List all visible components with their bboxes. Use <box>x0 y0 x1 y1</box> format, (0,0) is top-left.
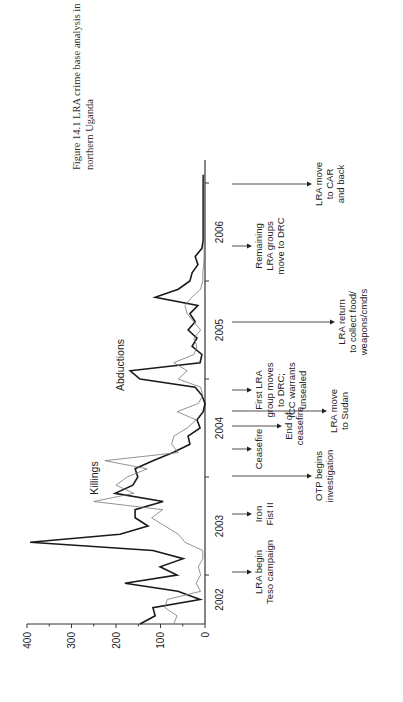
series-label-killings: Killings <box>88 461 100 494</box>
annotation-text-line: Remaining <box>253 223 264 268</box>
series-label-abductions: Abductions <box>114 339 126 391</box>
annotation-text-line: Teso campaign <box>264 540 275 604</box>
annotation: Ceasefire <box>232 429 264 470</box>
series-line-abductions <box>30 175 205 624</box>
annotation-text-line: group moves <box>264 362 275 417</box>
value-tick-label: 300 <box>66 632 77 649</box>
annotation-text-line: to collect food/ <box>347 291 358 353</box>
annotation-text-line: LRA return <box>336 299 347 344</box>
time-tick-label: 2004 <box>214 416 225 439</box>
annotation-arrowhead-icon <box>322 409 327 414</box>
annotation: RemainingLRA groupsmove to DRC <box>232 217 286 274</box>
series-labels: KillingsAbductions <box>88 339 126 495</box>
annotation-arrowhead-icon <box>247 388 252 393</box>
annotation: First LRAgroup movesto DRC;ICC warrantsu… <box>232 362 308 418</box>
annotation-text-line: LRA groups <box>264 221 275 271</box>
annotation-text-line: investigation <box>324 450 335 503</box>
annotation-text-line: to DRC; <box>275 373 286 407</box>
annotation-arrowhead-icon <box>247 512 252 517</box>
annotation-text-line: LRA begin <box>253 550 264 594</box>
chart-title-line: northern Uganda <box>84 99 95 170</box>
annotation-arrowhead-icon <box>330 320 335 325</box>
series-layer <box>30 175 205 624</box>
annotation-text-line: weapons/cmdrs <box>358 288 369 356</box>
annotation-text-line: move to DRC <box>275 217 286 274</box>
annotation-arrowhead-icon <box>247 447 252 452</box>
annotation-text-line: LRA move <box>313 162 324 206</box>
annotation-text-line: Ceasefire <box>253 429 264 470</box>
annotation-arrowhead-icon <box>307 474 312 479</box>
annotation-arrowhead-icon <box>247 244 252 249</box>
annotation: LRA returnto collect food/weapons/cmdrs <box>232 288 369 356</box>
annotation-text-line: Iron <box>253 506 264 522</box>
annotations: LRA beginTeso campaignIronFist IIOTP beg… <box>232 162 369 604</box>
time-tick-label: 2006 <box>214 220 225 243</box>
annotation-text-line: Fist II <box>264 502 275 525</box>
annotation-text-line: to Sudan <box>339 392 350 430</box>
annotation-text-line: to CAR <box>324 169 335 200</box>
annotation-text-line: OTP begins <box>313 451 324 501</box>
value-tick-label: 0 <box>200 632 211 638</box>
value-tick-label: 100 <box>155 632 166 649</box>
chart-title-line: Figure 14.1 LRA crime base analysis in <box>71 3 82 170</box>
axes: 010020030040020022003200420052006 <box>22 160 226 649</box>
annotation-text-line: LRA move <box>328 389 339 433</box>
annotation-arrowhead-icon <box>277 424 282 429</box>
annotation-text-line: and back <box>335 164 346 203</box>
annotation: OTP beginsinvestigation <box>232 450 335 503</box>
value-tick-label: 200 <box>111 632 122 649</box>
annotation-arrowhead-icon <box>307 182 312 187</box>
annotation-arrowhead-icon <box>247 570 252 575</box>
annotation: IronFist II <box>232 502 275 525</box>
time-tick-label: 2003 <box>214 514 225 537</box>
annotation-text-line: ICC warrants <box>286 362 297 418</box>
annotation: LRA beginTeso campaign <box>232 540 275 604</box>
time-tick-label: 2002 <box>214 588 225 611</box>
time-tick-label: 2005 <box>214 318 225 341</box>
annotation: LRA moveto CARand back <box>232 162 346 206</box>
series-line-killings <box>94 175 204 624</box>
chart-title: Figure 14.1 LRA crime base analysis inno… <box>71 3 95 170</box>
annotation-text-line: unsealed <box>297 371 308 410</box>
value-tick-label: 400 <box>22 632 33 649</box>
annotation-text-line: First LRA <box>253 370 264 410</box>
chart: Figure 14.1 LRA crime base analysis inno… <box>0 0 403 702</box>
